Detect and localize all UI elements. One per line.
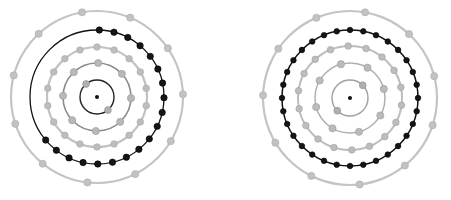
- electron: [275, 45, 282, 52]
- electron: [316, 77, 323, 84]
- electron: [279, 95, 285, 101]
- electron: [118, 70, 125, 77]
- electron: [431, 73, 438, 80]
- electron: [291, 57, 297, 63]
- electron: [405, 30, 412, 37]
- electron: [291, 133, 297, 139]
- electron: [301, 70, 308, 77]
- electron: [50, 119, 57, 126]
- electron: [77, 141, 84, 148]
- electron: [111, 29, 117, 35]
- electron: [398, 102, 405, 109]
- electron: [159, 80, 165, 86]
- electron: [35, 30, 42, 37]
- electron: [327, 46, 334, 53]
- electron: [123, 154, 129, 160]
- electron: [414, 108, 420, 114]
- electron: [53, 147, 59, 153]
- nucleus: [348, 96, 352, 100]
- electron: [309, 152, 315, 158]
- electron: [410, 121, 416, 127]
- electron: [404, 57, 410, 63]
- electron: [345, 43, 352, 50]
- electron: [309, 39, 315, 45]
- electron: [95, 161, 101, 167]
- electron: [296, 106, 303, 113]
- electron: [321, 158, 327, 164]
- electron: [414, 82, 420, 88]
- left-atom-model: [10, 9, 186, 186]
- electron: [77, 47, 84, 54]
- electron: [360, 29, 366, 35]
- electron: [385, 152, 391, 158]
- atom-diagram: [0, 0, 451, 200]
- electron: [95, 59, 102, 66]
- electron: [132, 170, 139, 177]
- electron: [363, 45, 370, 52]
- electron: [364, 64, 371, 71]
- electron: [385, 39, 391, 45]
- electron: [66, 155, 72, 161]
- electron: [155, 66, 161, 72]
- electron: [313, 14, 320, 21]
- electron: [284, 121, 290, 127]
- electron: [111, 47, 118, 54]
- electron: [147, 53, 153, 59]
- electron: [379, 54, 386, 61]
- electron: [92, 127, 99, 134]
- electron: [415, 95, 421, 101]
- electron: [313, 103, 320, 110]
- electron: [281, 108, 287, 114]
- electron: [429, 122, 436, 129]
- electron: [127, 14, 134, 21]
- electron: [398, 84, 405, 91]
- electron: [366, 143, 373, 150]
- nucleus: [95, 95, 99, 99]
- electron: [347, 163, 353, 169]
- electron: [347, 27, 353, 33]
- electron: [127, 95, 134, 102]
- electron: [299, 143, 305, 149]
- electron: [109, 159, 115, 165]
- electron: [349, 147, 356, 154]
- electron: [105, 107, 112, 114]
- electron: [381, 133, 388, 140]
- electron: [395, 143, 401, 149]
- electron: [146, 136, 152, 142]
- electron: [94, 44, 101, 51]
- electron: [373, 32, 379, 38]
- electron: [83, 81, 90, 88]
- electron: [62, 55, 69, 62]
- electron: [331, 144, 338, 151]
- electron: [380, 85, 387, 92]
- electron: [373, 158, 379, 164]
- right-atom-model: [259, 9, 437, 188]
- electron: [44, 85, 51, 92]
- electron: [334, 162, 340, 168]
- electron: [126, 132, 133, 139]
- electron: [315, 136, 322, 143]
- electron: [356, 181, 363, 188]
- electron: [154, 123, 160, 129]
- electron: [281, 82, 287, 88]
- electron: [179, 91, 186, 98]
- electron: [96, 27, 102, 33]
- electron: [355, 128, 362, 135]
- electron: [117, 118, 124, 125]
- electron: [164, 45, 171, 52]
- electron: [359, 82, 366, 89]
- electron: [10, 72, 17, 79]
- electron: [125, 34, 131, 40]
- electron: [62, 132, 69, 139]
- electron: [137, 42, 143, 48]
- electron: [308, 172, 315, 179]
- electron: [143, 85, 150, 92]
- electron: [391, 67, 398, 74]
- electron: [126, 55, 133, 62]
- electron: [50, 69, 57, 76]
- electron: [161, 95, 167, 101]
- electron: [137, 69, 144, 76]
- electron: [334, 107, 341, 114]
- electron: [44, 102, 51, 109]
- electron: [312, 56, 319, 63]
